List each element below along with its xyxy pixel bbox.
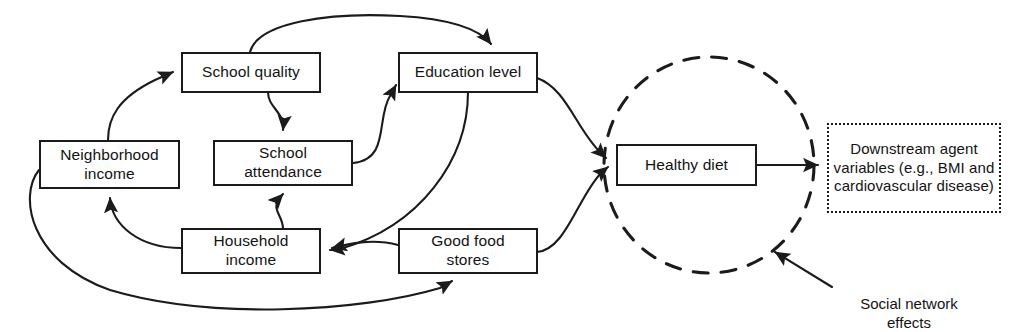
edge-neighborhood-to-school-quality	[108, 72, 173, 140]
edge-household-to-attendance	[276, 194, 283, 229]
node-education-level[interactable]: Education level	[398, 52, 538, 93]
edge-education-to-healthy-diet	[537, 78, 606, 158]
edge-attendance-to-education	[353, 85, 396, 163]
node-downstream-agent-variables[interactable]: Downstream agent variables (e.g., BMI an…	[827, 123, 1001, 213]
edge-foodstores-to-household	[332, 242, 398, 248]
node-school-quality[interactable]: School quality	[181, 52, 321, 93]
edge-foodstores-to-healthy-diet	[537, 167, 608, 252]
node-healthy-diet[interactable]: Healthy diet	[616, 144, 757, 186]
edge-social-network-annotation	[775, 252, 832, 287]
node-good-food-stores-label: Good food stores	[427, 232, 508, 270]
node-downstream-agent-variables-label: Downstream agent variables (e.g., BMI an…	[829, 140, 999, 196]
node-school-attendance[interactable]: School attendance	[213, 140, 353, 186]
node-household-income[interactable]: Household income	[181, 228, 321, 274]
node-neighborhood-income[interactable]: Neighborhood income	[39, 140, 180, 189]
label-social-network-effects-text: Social network effects	[860, 295, 958, 330]
label-social-network-effects: Social network effects	[834, 277, 984, 332]
node-healthy-diet-label: Healthy diet	[641, 156, 732, 175]
edge-school-quality-to-education	[250, 15, 491, 52]
edge-household-to-neighborhood	[110, 198, 181, 248]
node-school-quality-label: School quality	[198, 63, 304, 82]
node-education-level-label: Education level	[411, 63, 526, 82]
node-good-food-stores[interactable]: Good food stores	[398, 228, 538, 274]
node-neighborhood-income-label: Neighborhood income	[56, 146, 163, 184]
node-school-attendance-label: School attendance	[240, 144, 326, 182]
edge-school-quality-to-attendance	[268, 92, 283, 130]
node-household-income-label: Household income	[209, 232, 292, 270]
